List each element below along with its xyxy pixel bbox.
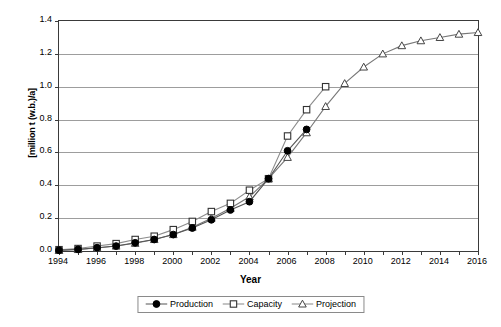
data-point-production [303, 126, 310, 133]
x-axis-tick-label: 2012 [381, 256, 421, 266]
x-axis-tick-label: 1994 [38, 256, 78, 266]
x-axis-tick-label: 2002 [190, 256, 230, 266]
x-axis-title: Year [0, 274, 501, 285]
data-point-capacity [284, 133, 290, 139]
x-axis-tick-label: 2000 [152, 256, 192, 266]
x-axis-tick [135, 251, 136, 255]
x-axis-tick [116, 251, 117, 255]
x-axis-tick-label: 2010 [343, 256, 383, 266]
y-axis-tick-label: 0.8 [18, 114, 52, 123]
data-point-production [227, 207, 234, 214]
data-point-production [265, 175, 272, 182]
legend-label: Capacity [247, 299, 282, 309]
series-line-projection [59, 33, 478, 251]
x-axis-tick [249, 251, 250, 255]
legend-item-capacity: Capacity [222, 299, 282, 309]
legend-label: Production [170, 299, 213, 309]
x-axis-tick [154, 251, 155, 255]
x-axis-tick [192, 251, 193, 255]
x-axis-tick [402, 251, 403, 255]
y-axis-tick-label: 1.0 [18, 81, 52, 90]
data-point-capacity [208, 208, 214, 214]
chart-legend: ProductionCapacityProjection [137, 296, 364, 313]
data-point-capacity [227, 200, 233, 206]
x-axis-tick [230, 251, 231, 255]
series-plot [59, 21, 478, 251]
x-axis-tick [269, 251, 270, 255]
data-point-projection [360, 63, 368, 70]
data-point-production [132, 239, 139, 246]
y-axis-tick-label: 0.6 [18, 146, 52, 155]
x-axis-tick [383, 251, 384, 255]
data-point-projection [379, 50, 387, 57]
data-point-production [208, 216, 215, 223]
y-axis-tick-label: 0.2 [18, 212, 52, 221]
data-point-production [56, 247, 63, 254]
x-axis-tick-label: 2014 [419, 256, 459, 266]
data-point-capacity [322, 84, 328, 90]
x-axis-tick-label: 1998 [114, 256, 154, 266]
x-axis-tick [211, 251, 212, 255]
x-axis-tick-label: 2008 [305, 256, 345, 266]
data-point-production [151, 236, 158, 243]
data-point-production [189, 225, 196, 232]
series-line-production [59, 129, 307, 250]
legend-label: Projection [316, 299, 356, 309]
x-axis-tick-label: 2006 [267, 256, 307, 266]
filled-circle-icon [145, 299, 167, 309]
legend-item-production: Production [145, 299, 213, 309]
data-point-capacity [303, 107, 309, 113]
open-square-icon [222, 299, 244, 309]
open-triangle-icon [291, 299, 313, 309]
legend-item-projection: Projection [291, 299, 356, 309]
x-axis-tick [326, 251, 327, 255]
y-axis-tick-label: 0.0 [18, 245, 52, 254]
data-point-projection [474, 29, 482, 36]
chart-container: [million t (w.b.)/a] 0.00.20.40.60.81.01… [0, 0, 501, 327]
x-axis-tick-label: 1996 [76, 256, 116, 266]
x-axis-tick-label: 2004 [228, 256, 268, 266]
data-point-production [113, 243, 120, 250]
x-axis-tick [173, 251, 174, 255]
y-axis-tick-label: 1.4 [18, 15, 52, 24]
x-axis-tick [345, 251, 346, 255]
x-axis-tick [288, 251, 289, 255]
data-point-production [75, 246, 82, 253]
y-axis-tick-label: 1.2 [18, 48, 52, 57]
data-point-production [284, 147, 291, 154]
data-point-production [246, 198, 253, 205]
x-axis-tick [364, 251, 365, 255]
data-point-capacity [189, 218, 195, 224]
data-point-production [94, 244, 101, 251]
x-axis-tick [440, 251, 441, 255]
y-axis-tick-label: 0.4 [18, 179, 52, 188]
data-point-production [170, 231, 177, 238]
plot-area [58, 20, 479, 252]
x-axis-tick-label: 2016 [457, 256, 497, 266]
x-axis-tick [478, 251, 479, 255]
x-axis-tick [421, 251, 422, 255]
x-axis-tick [307, 251, 308, 255]
x-axis-tick [459, 251, 460, 255]
data-point-capacity [246, 187, 252, 193]
